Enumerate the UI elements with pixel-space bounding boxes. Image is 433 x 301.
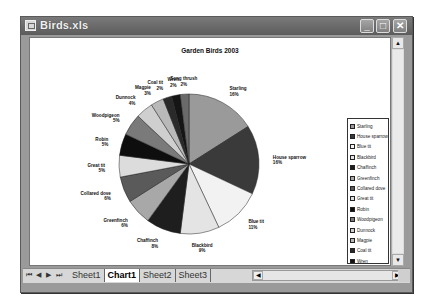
legend-label: Blackbird [357, 155, 376, 160]
data-label: Woodpigeon5% [92, 113, 120, 124]
legend-label: Robin [357, 207, 369, 212]
last-sheet-button[interactable]: ⏭ [56, 271, 62, 279]
data-label: Magpie3% [135, 85, 151, 96]
legend-swatch-icon [350, 259, 355, 264]
data-label: Greenfinch6% [104, 218, 128, 229]
workbook-icon[interactable] [25, 20, 36, 31]
scroll-down-button[interactable]: ▼ [392, 254, 404, 266]
data-label: Great tit5% [87, 163, 105, 174]
data-label: Blackbird9% [192, 243, 213, 254]
resize-grip[interactable] [398, 269, 410, 282]
legend-label: Coal tit [357, 248, 371, 253]
scroll-up-button[interactable]: ▲ [392, 37, 404, 49]
sheet-tab-bar: ⏮ ◀ ▶ ⏭ Sheet1 Chart1 Sheet2 Sheet3 ◀ ▶ [23, 268, 410, 283]
pie-chart[interactable]: Starling16%House sparrow16%Blue tit11%Bl… [30, 38, 390, 265]
next-sheet-button[interactable]: ▶ [46, 271, 51, 279]
maximize-button[interactable]: □ [376, 19, 390, 33]
legend-item[interactable]: Great tit [348, 194, 388, 204]
legend-item[interactable]: Coal tit [348, 246, 388, 256]
legend-item[interactable]: Blue tit [348, 142, 388, 152]
title-bar[interactable]: Birds.xls _ □ ✕ [21, 17, 412, 35]
legend-swatch-icon [350, 176, 355, 181]
legend-swatch-icon [350, 124, 355, 129]
legend-swatch-icon [350, 134, 355, 139]
legend-item[interactable]: Woodpigeon [348, 215, 388, 225]
legend-label: Woodpigeon [357, 217, 383, 222]
data-label: Blue tit11% [248, 219, 264, 230]
legend-swatch-icon [350, 228, 355, 233]
legend-item[interactable]: Blackbird [348, 152, 388, 162]
tab-sheet3[interactable]: Sheet3 [176, 269, 212, 282]
tab-sheet1[interactable]: Sheet1 [69, 269, 105, 282]
data-label: Robin5% [95, 137, 108, 148]
legend-item[interactable]: Dunnock [348, 225, 388, 235]
data-label: House sparrow16% [273, 155, 307, 166]
first-sheet-button[interactable]: ⏮ [26, 271, 32, 279]
legend-label: Magpie [357, 238, 372, 243]
legend-swatch-icon [350, 238, 355, 243]
legend-item[interactable]: Starling [348, 121, 388, 131]
legend-swatch-icon [350, 217, 355, 222]
data-label: Chaffinch8% [137, 238, 158, 249]
excel-window: Birds.xls _ □ ✕ Garden Birds 2003 Starli… [20, 16, 413, 293]
tab-chart1[interactable]: Chart1 [105, 269, 141, 282]
legend-label: House sparrow [357, 134, 388, 139]
tab-sheet2[interactable]: Sheet2 [140, 269, 176, 282]
legend-label: Dunnock [357, 228, 375, 233]
chart-legend[interactable]: StarlingHouse sparrowBlue titBlackbirdCh… [347, 118, 389, 264]
scroll-left-button[interactable]: ◀ [253, 271, 263, 280]
legend-item[interactable]: Wren [348, 256, 388, 264]
legend-label: Collared dove [357, 186, 385, 191]
legend-swatch-icon [350, 165, 355, 170]
legend-item[interactable]: Chaffinch [348, 163, 388, 173]
legend-swatch-icon [350, 248, 355, 253]
prev-sheet-button[interactable]: ◀ [36, 271, 41, 279]
legend-swatch-icon [350, 207, 355, 212]
legend-label: Starling [357, 124, 373, 129]
legend-label: Greenfinch [357, 176, 379, 181]
close-button[interactable]: ✕ [393, 19, 407, 33]
legend-item[interactable]: Greenfinch [348, 173, 388, 183]
window-title: Birds.xls [40, 19, 88, 31]
legend-item[interactable]: Robin [348, 204, 388, 214]
legend-label: Chaffinch [357, 165, 376, 170]
vertical-scroll-track[interactable] [393, 50, 403, 253]
legend-item[interactable]: Collared dove [348, 183, 388, 193]
legend-swatch-icon [350, 186, 355, 191]
legend-swatch-icon [350, 144, 355, 149]
legend-label: Great tit [357, 196, 373, 201]
legend-item[interactable]: Magpie [348, 235, 388, 245]
legend-swatch-icon [350, 196, 355, 201]
data-label: Dunnock4% [116, 95, 136, 106]
legend-label: Blue tit [357, 144, 371, 149]
data-label: Collared dove6% [81, 191, 112, 202]
legend-label: Wren [357, 259, 368, 264]
minimize-button[interactable]: _ [360, 19, 374, 33]
data-label: Starling16% [229, 86, 246, 97]
legend-item[interactable]: House sparrow [348, 131, 388, 141]
sheet-tabs: Sheet1 Chart1 Sheet2 Sheet3 [69, 269, 211, 282]
legend-swatch-icon [350, 155, 355, 160]
vertical-scrollbar[interactable]: ▲ ▼ [391, 37, 404, 266]
horizontal-scrollbar[interactable]: ◀ ▶ [252, 270, 403, 281]
chart-sheet-area[interactable]: Garden Birds 2003 Starling16%House sparr… [29, 37, 391, 266]
